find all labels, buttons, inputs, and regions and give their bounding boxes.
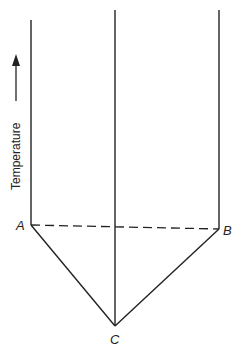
temperature-arrow-icon [12,54,20,101]
line-a-c [31,225,115,326]
dashed-line-a-b [31,225,219,229]
point-label-c: C [110,332,120,347]
line-c-b [115,229,219,326]
phase-diagram: Temperature A B C [0,0,242,355]
temperature-axis-label: Temperature [9,122,23,190]
point-label-b: B [223,223,232,238]
point-label-a: A [15,218,25,233]
